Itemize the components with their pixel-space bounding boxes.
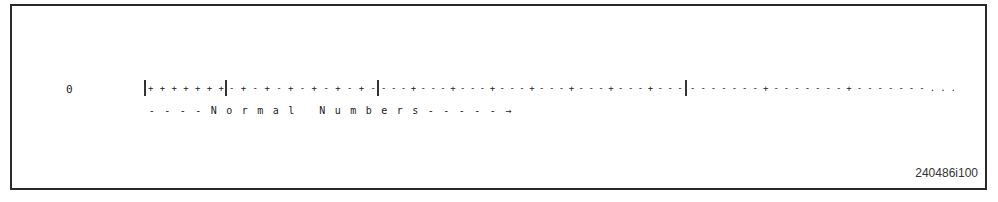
normal-region-1: -+-+-+-+-+-+-	[229, 82, 376, 94]
tick-mark: +	[529, 83, 534, 93]
tick-mark: +	[183, 83, 188, 93]
dash-mark: -	[588, 83, 593, 93]
caption-char	[299, 105, 315, 116]
caption-char: N	[315, 105, 331, 116]
dash-mark: -	[700, 83, 705, 93]
dash-mark: -	[825, 83, 830, 93]
dash-mark: -	[579, 83, 584, 93]
caption-char: N	[206, 105, 222, 116]
dash-mark: -	[509, 83, 514, 93]
dash-mark: -	[371, 83, 376, 93]
dash-mark: -	[753, 83, 758, 93]
tick-mark: +	[411, 83, 416, 93]
tick-mark: +	[648, 83, 653, 93]
caption-char: u	[330, 105, 346, 116]
caption-char: →	[501, 105, 517, 116]
tick-mark: +	[569, 83, 574, 93]
normal-numbers-caption: ----NormalNumbers-----→	[144, 105, 516, 116]
dash-mark: -	[480, 83, 485, 93]
tick-mark: +	[195, 83, 200, 93]
caption-char: -	[144, 105, 160, 116]
denormal-region: +++++++	[148, 82, 224, 94]
caption-char: -	[175, 105, 191, 116]
dash-mark: -	[440, 83, 445, 93]
dash-mark: -	[742, 83, 747, 93]
dash-mark: -	[519, 83, 524, 93]
dash-mark: -	[549, 83, 554, 93]
figure-frame	[10, 4, 987, 190]
boundary-marker-3	[685, 80, 687, 96]
boundary-marker-zero	[144, 80, 146, 96]
dash-mark: -	[721, 83, 726, 93]
dash-mark: -	[677, 83, 682, 93]
dash-mark: -	[253, 83, 258, 93]
tick-mark: +	[241, 83, 246, 93]
caption-char: r	[237, 105, 253, 116]
dash-mark: -	[805, 83, 810, 93]
tick-mark: +	[846, 83, 851, 93]
dash-mark: -	[919, 83, 924, 93]
caption-char: -	[191, 105, 207, 116]
dash-mark: -	[300, 83, 305, 93]
dash-mark: -	[784, 83, 789, 93]
caption-char: m	[346, 105, 362, 116]
tick-mark: +	[148, 83, 153, 93]
caption-char: -	[485, 105, 501, 116]
boundary-marker-1	[225, 80, 227, 96]
dash-mark: -	[638, 83, 643, 93]
boundary-marker-2	[377, 80, 379, 96]
dash-mark: -	[229, 83, 234, 93]
dash-mark: -	[470, 83, 475, 93]
continuation-dot: .	[940, 83, 945, 93]
tick-mark: +	[288, 83, 293, 93]
tick-mark: +	[160, 83, 165, 93]
caption-char: -	[454, 105, 470, 116]
caption-char: l	[284, 105, 300, 116]
caption-char: -	[423, 105, 439, 116]
caption-char: s	[408, 105, 424, 116]
dash-mark: -	[773, 83, 778, 93]
dash-mark: -	[347, 83, 352, 93]
dash-mark: -	[690, 83, 695, 93]
caption-char: m	[253, 105, 269, 116]
tick-mark: +	[450, 83, 455, 93]
dash-mark: -	[276, 83, 281, 93]
dash-mark: -	[559, 83, 564, 93]
tick-mark: +	[359, 83, 364, 93]
tick-mark: +	[207, 83, 212, 93]
dash-mark: -	[732, 83, 737, 93]
caption-char: b	[361, 105, 377, 116]
caption-char: -	[439, 105, 455, 116]
continuation-dot: .	[930, 83, 935, 93]
dash-mark: -	[667, 83, 672, 93]
continuation-dot: .	[951, 83, 956, 93]
dash-mark: -	[658, 83, 663, 93]
figure-id: 240486i100	[915, 166, 978, 180]
caption-char: r	[392, 105, 408, 116]
tick-mark: +	[490, 83, 495, 93]
caption-char: a	[268, 105, 284, 116]
tick-mark: +	[335, 83, 340, 93]
caption-char: e	[377, 105, 393, 116]
dash-mark: -	[539, 83, 544, 93]
dash-mark: -	[421, 83, 426, 93]
dash-mark: -	[867, 83, 872, 93]
dash-mark: -	[857, 83, 862, 93]
dash-mark: -	[878, 83, 883, 93]
dash-mark: -	[430, 83, 435, 93]
dash-mark: -	[794, 83, 799, 93]
dash-mark: -	[598, 83, 603, 93]
dash-mark: -	[888, 83, 893, 93]
dash-mark: -	[836, 83, 841, 93]
tick-mark: +	[172, 83, 177, 93]
tick-mark: +	[608, 83, 613, 93]
dash-mark: -	[711, 83, 716, 93]
dash-mark: -	[909, 83, 914, 93]
normal-region-2: ---+---+---+---+---+---+---+---	[381, 82, 683, 94]
dash-mark: -	[460, 83, 465, 93]
dash-mark: -	[898, 83, 903, 93]
dash-mark: -	[815, 83, 820, 93]
dash-mark: -	[500, 83, 505, 93]
caption-char: -	[160, 105, 176, 116]
dash-mark: -	[381, 83, 386, 93]
